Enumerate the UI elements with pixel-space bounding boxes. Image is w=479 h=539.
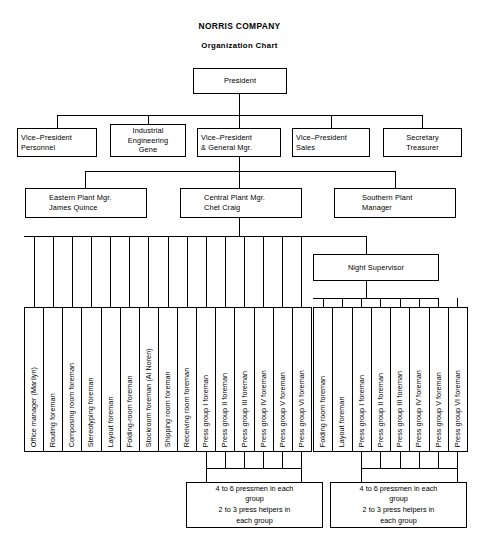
column-night-4[interactable]: Press group III foreman <box>390 307 410 452</box>
node-president[interactable]: President <box>193 68 287 94</box>
column-day-9-label: Press group I foreman <box>203 375 210 447</box>
connector-night-press-stub-5 <box>419 452 420 468</box>
connector-day-drop-4 <box>110 236 111 307</box>
chart-subtitle: Organization Chart <box>0 41 479 50</box>
column-day-11[interactable]: Press group III foreman <box>234 307 254 452</box>
connector-night-drop-7 <box>457 298 458 307</box>
connector-day-drop-6 <box>148 236 149 307</box>
connector-night-drop-5 <box>419 298 420 307</box>
column-night-7-label: Press group VI foreman <box>454 370 461 447</box>
column-night-6[interactable]: Press group V foreman <box>429 307 449 452</box>
connector-night-note-left <box>361 468 362 482</box>
connector-night-press-stub-2 <box>361 452 362 468</box>
connector-drop-vp-sales <box>331 115 332 128</box>
column-day-8[interactable]: Receiving room foreman <box>177 307 197 452</box>
column-night-0[interactable]: Folding room foreman <box>313 307 333 452</box>
node-southern-plant-manager[interactable]: Southern Plant Manager <box>334 188 456 218</box>
connector-day-drop-11 <box>244 236 245 307</box>
column-day-12[interactable]: Press group IV foreman <box>254 307 274 452</box>
connector-drop-vp-personnel <box>57 115 58 128</box>
column-day-5-label: Folding-room foreman <box>126 375 133 447</box>
connector-day-press-stub-13 <box>282 452 283 468</box>
connector-night-press-stub-6 <box>438 452 439 468</box>
node-secretary-treasurer-label: Secretary Treasurer <box>403 133 442 153</box>
connector-night-bus-stem <box>366 281 367 298</box>
column-night-0-label: Folding room foreman <box>320 376 327 447</box>
column-day-7-label: Shipping room foreman <box>164 371 171 447</box>
connector-drop-central-plant <box>239 171 240 188</box>
column-night-1[interactable]: Layout foreman <box>332 307 352 452</box>
column-night-2-label: Press group I foreman <box>358 375 365 447</box>
node-central-plant-manager-label: Central Plant Mgr. Chet Craig <box>181 193 268 213</box>
connector-day-press-bus <box>206 468 301 469</box>
connector-day-drop-14 <box>301 236 302 307</box>
column-day-12-label: Press group IV foreman <box>260 370 267 447</box>
column-night-4-label: Press group III foreman <box>397 371 404 447</box>
connector-day-press-stub-9 <box>206 452 207 468</box>
column-day-1-label: Routing foreman <box>50 393 57 447</box>
column-day-9[interactable]: Press group I foreman <box>196 307 216 452</box>
connector-day-press-stub-11 <box>244 452 245 468</box>
column-day-1[interactable]: Routing foreman <box>43 307 63 452</box>
connector-day-press-stub-12 <box>263 452 264 468</box>
column-day-0-label: Office manager (Marilyn) <box>30 367 37 447</box>
connector-day-drop-2 <box>72 236 73 307</box>
column-night-5[interactable]: Press group IV foreman <box>409 307 429 452</box>
column-day-11-label: Press group III foreman <box>241 371 248 447</box>
node-vp-general-manager[interactable]: Vice–President & General Mgr. <box>197 128 281 157</box>
connector-night-note-right <box>457 468 458 482</box>
column-night-2[interactable]: Press group I foreman <box>352 307 372 452</box>
column-day-6[interactable]: Stockroom foreman (Al Noren) <box>139 307 159 452</box>
node-central-plant-manager[interactable]: Central Plant Mgr. Chet Craig <box>180 188 302 218</box>
node-night-supervisor[interactable]: Night Supervisor <box>313 254 439 281</box>
connector-president-stem <box>239 94 240 115</box>
connector-night-drop-2 <box>361 298 362 307</box>
node-vp-personnel[interactable]: Vice–President Personnel <box>17 128 97 157</box>
note-day-press-groups-text: 4 to 6 pressmen in each group 2 to 3 pre… <box>216 484 294 526</box>
connector-level3-bus <box>85 171 395 172</box>
connector-drop-eastern-plant <box>85 171 86 188</box>
node-industrial-engineering[interactable]: Industrial Engineering Gene <box>110 124 186 157</box>
node-secretary-treasurer[interactable]: Secretary Treasurer <box>383 128 462 157</box>
column-night-6-label: Press group V foreman <box>435 372 442 447</box>
connector-day-drop-0 <box>34 236 35 307</box>
column-night-7[interactable]: Press group VI foreman <box>448 307 468 452</box>
connector-vp-general-stem <box>239 157 240 171</box>
column-day-8-label: Receiving room foreman <box>184 368 191 447</box>
node-eastern-plant-manager[interactable]: Eastern Plant Mgr. James Quince <box>25 188 147 218</box>
column-night-3[interactable]: Press group II foreman <box>371 307 391 452</box>
column-day-10[interactable]: Press group II foreman <box>215 307 235 452</box>
connector-night-shift-bus <box>313 298 439 299</box>
column-day-2-label: Composing room foreman <box>69 363 76 447</box>
connector-day-press-stub-10 <box>225 452 226 468</box>
connector-night-press-stub-7 <box>457 452 458 468</box>
column-day-7[interactable]: Shipping room foreman <box>158 307 178 452</box>
node-president-label: President <box>221 76 259 86</box>
connector-day-note-left <box>206 468 207 482</box>
connector-day-drop-3 <box>91 236 92 307</box>
connector-night-drop-6 <box>438 298 439 307</box>
column-day-3-label: Stereotyping foreman <box>88 377 95 447</box>
connector-day-shift-bus <box>24 236 366 237</box>
connector-central-plant-stem <box>239 218 240 236</box>
connector-day-drop-10 <box>225 236 226 307</box>
column-day-13[interactable]: Press group V foreman <box>273 307 293 452</box>
column-day-2[interactable]: Composing room foreman <box>62 307 82 452</box>
column-day-6-label: Stockroom foreman (Al Noren) <box>145 348 152 447</box>
connector-night-press-stub-4 <box>400 452 401 468</box>
node-vp-sales-label: Vice–President Sales <box>293 133 350 153</box>
column-night-3-label: Press group II foreman <box>377 373 384 447</box>
column-day-0[interactable]: Office manager (Marilyn) <box>24 307 44 452</box>
column-day-5[interactable]: Folding-room foreman <box>120 307 140 452</box>
column-day-14[interactable]: Press group VI foreman <box>292 307 312 452</box>
node-vp-sales[interactable]: Vice–President Sales <box>292 128 370 157</box>
column-day-3[interactable]: Stereotyping foreman <box>81 307 101 452</box>
column-day-4[interactable]: Layout foreman <box>101 307 121 452</box>
connector-night-press-bus <box>361 468 457 469</box>
node-vp-personnel-label: Vice–President Personnel <box>18 133 75 153</box>
note-day-press-groups: 4 to 6 pressmen in each group 2 to 3 pre… <box>186 482 323 528</box>
column-night-5-label: Press group IV foreman <box>416 370 423 447</box>
connector-night-drop-3 <box>380 298 381 307</box>
connector-night-drop-0 <box>323 298 324 307</box>
connector-day-drop-13 <box>282 236 283 307</box>
